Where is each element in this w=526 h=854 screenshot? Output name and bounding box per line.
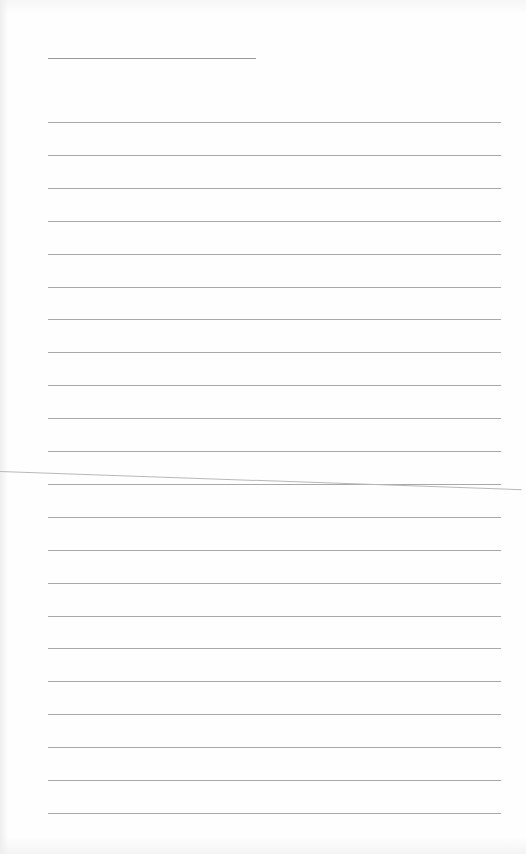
paper-edge-shadow <box>0 0 8 854</box>
ruled-line <box>48 254 501 255</box>
ruled-line <box>48 550 501 551</box>
ruled-line <box>48 714 501 715</box>
ruled-line <box>48 747 501 748</box>
ruled-line <box>48 385 501 386</box>
ruled-line <box>48 517 501 518</box>
ruled-line <box>48 780 501 781</box>
ruled-line <box>48 681 501 682</box>
lined-paper-page <box>0 0 526 854</box>
paper-crease <box>0 471 522 490</box>
ruled-line <box>48 122 501 123</box>
ruled-line <box>48 813 501 814</box>
ruled-line <box>48 484 501 485</box>
title-line <box>48 58 256 59</box>
ruled-line <box>48 155 501 156</box>
ruled-line <box>48 287 501 288</box>
ruled-line <box>48 221 501 222</box>
ruled-line <box>48 352 501 353</box>
ruled-line <box>48 616 501 617</box>
ruled-line <box>48 188 501 189</box>
ruled-line <box>48 583 501 584</box>
ruled-line <box>48 451 501 452</box>
ruled-line <box>48 418 501 419</box>
ruled-line <box>48 319 501 320</box>
ruled-line <box>48 648 501 649</box>
